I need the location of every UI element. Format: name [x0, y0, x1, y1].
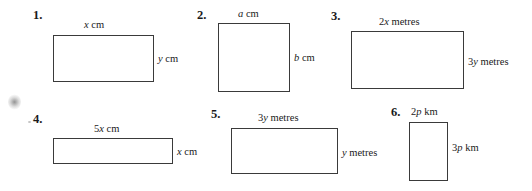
exercise-3-top-label: 2x metres: [379, 17, 420, 28]
exercise-1-number: 1.: [33, 9, 42, 22]
exercise-6-number: 6.: [391, 106, 400, 119]
exercise-3-rectangle: [351, 31, 464, 89]
exercise-5-number: 5.: [211, 108, 220, 121]
exercise-5-rectangle: [231, 128, 338, 174]
exercise-5-side-label: y metres: [342, 148, 377, 159]
exercise-2-side-label: b cm: [294, 53, 315, 64]
exercise-6-top-label: 2p km: [411, 107, 438, 118]
exercise-1-rectangle: [53, 35, 154, 82]
scan-speck-artifact: [28, 121, 31, 123]
exercise-1-side-label: y cm: [158, 54, 178, 65]
exercise-3-side-label: 3y metres: [468, 57, 509, 68]
exercise-4-top-label: 5x cm: [94, 124, 119, 135]
exercise-2-rectangle: [218, 23, 290, 92]
scan-smudge-artifact: [8, 94, 21, 110]
exercise-4-rectangle: [53, 138, 173, 164]
exercise-4-number: 4.: [33, 113, 42, 126]
exercise-1-top-label: x cm: [84, 20, 104, 31]
exercise-2-top-label: a cm: [238, 9, 259, 20]
exercise-2-number: 2.: [197, 9, 206, 22]
exercise-6-side-label: 3p km: [452, 143, 479, 154]
exercise-3-number: 3.: [331, 10, 340, 23]
exercise-6-rectangle: [409, 122, 448, 181]
worksheet-figure-panel: 1. x cm y cm 2. a cm b cm 3. 2x metres 3…: [0, 0, 532, 191]
exercise-5-top-label: 3y metres: [258, 113, 299, 124]
exercise-4-side-label: x cm: [177, 147, 197, 158]
